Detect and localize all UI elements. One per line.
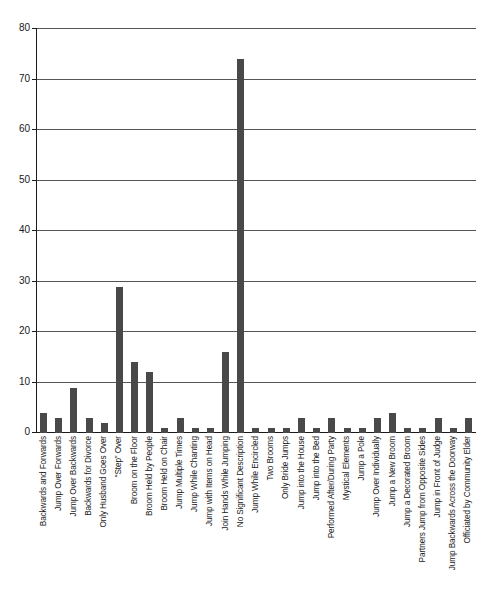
x-axis-tick-label: Jump Backwards Across the Doorway [449, 436, 457, 570]
y-axis: 01020304050607080 [0, 28, 30, 433]
x-axis-labels: Backwards and ForwardsJump Over Forwards… [36, 434, 476, 586]
y-tick-mark-30 [32, 281, 37, 282]
x-axis-tick-label: Officiated by Community Elder [464, 436, 472, 544]
x-axis-tick-label: Jump in Front of Judge [434, 436, 442, 518]
y-tick-mark-50 [32, 180, 37, 181]
x-label-slot: Jump with Items on Head [203, 434, 218, 586]
x-axis-tick-label: Jump Multiple Times [176, 436, 184, 509]
gridline-40 [37, 230, 476, 231]
gridline-10 [37, 382, 476, 383]
gridline-50 [37, 180, 476, 181]
x-axis-tick-label: No Significant Description [237, 436, 245, 527]
x-label-slot: Jump While Encircled [248, 434, 263, 586]
y-tick-label: 40 [19, 225, 30, 235]
x-label-slot: Broom Held on Chair [157, 434, 172, 586]
x-axis-tick-label: Mystical Elements [343, 436, 351, 500]
x-label-slot: Officiated by Community Elder [461, 434, 476, 586]
x-axis-tick-label: Broom on the Floor [131, 436, 139, 504]
y-tick-label: 20 [19, 326, 30, 336]
x-axis-tick-label: Jump Over Forwards [55, 436, 63, 511]
x-label-slot: Jump Over Individually [370, 434, 385, 586]
x-label-slot: Performed After/During Party [324, 434, 339, 586]
x-axis-tick-label: Performed After/During Party [328, 436, 336, 538]
x-axis-tick-label: Backwards and Forwards [39, 436, 47, 526]
y-tick-mark-80 [32, 28, 37, 29]
y-tick-mark-40 [32, 230, 37, 231]
x-label-slot: Only Bride Jumps [279, 434, 294, 586]
x-label-slot: Backwards and Forwards [36, 434, 51, 586]
x-label-slot: Jump Over Backwards [66, 434, 81, 586]
x-axis-tick-label: Partners Jump from Opposite Sides [419, 436, 427, 562]
y-tick-label: 70 [19, 74, 30, 84]
gridline-80 [37, 28, 476, 29]
x-label-slot: Partners Jump from Opposite Sides [415, 434, 430, 586]
y-tick-label: 50 [19, 175, 30, 185]
y-tick-label: 0 [24, 427, 30, 437]
x-axis-tick-label: Jump While Chanting [191, 436, 199, 512]
x-axis-tick-label: Jump a New Broom [388, 436, 396, 506]
x-label-slot: Jump in Front of Judge [430, 434, 445, 586]
x-label-slot: Jump a Decorated Broom [400, 434, 415, 586]
x-axis-tick-label: Join Hands While Jumping [222, 436, 230, 531]
x-label-slot: Jump into the Bed [309, 434, 324, 586]
x-label-slot: Jump While Chanting [188, 434, 203, 586]
y-tick-mark-10 [32, 382, 37, 383]
x-axis-tick-label: Only Bride Jumps [282, 436, 290, 499]
gridline-30 [37, 281, 476, 282]
x-label-slot: “Step” Over [112, 434, 127, 586]
x-label-slot: Join Hands While Jumping [218, 434, 233, 586]
x-label-slot: Jump a New Broom [385, 434, 400, 586]
x-label-slot: Broom Held by People [142, 434, 157, 586]
x-axis-tick-label: “Step” Over [115, 436, 123, 477]
x-label-slot: Jump Multiple Times [173, 434, 188, 586]
y-tick-mark-20 [32, 331, 37, 332]
y-tick-label: 10 [19, 377, 30, 387]
x-axis-tick-label: Only Husband Goes Over [100, 436, 108, 528]
x-axis-tick-label: Broom Held on Chair [161, 436, 169, 511]
x-label-slot: Jump into the House [294, 434, 309, 586]
x-axis-tick-label: Jump a Decorated Broom [404, 436, 412, 527]
x-label-slot: Jump a Pole [355, 434, 370, 586]
y-tick-mark-0 [32, 432, 37, 433]
y-tick-label: 80 [19, 23, 30, 33]
x-axis-tick-label: Broom Held by People [146, 436, 154, 516]
x-axis-tick-label: Jump a Pole [358, 436, 366, 480]
x-label-slot: Jump Backwards Across the Doorway [446, 434, 461, 586]
x-axis-tick-label: Jump into the Bed [313, 436, 321, 500]
x-axis-tick-label: Jump with Items on Head [206, 436, 214, 526]
y-tick-mark-60 [32, 129, 37, 130]
y-tick-label: 30 [19, 276, 30, 286]
x-axis-tick-label: Jump into the House [297, 436, 305, 509]
x-axis-tick-label: Jump While Encircled [252, 436, 260, 513]
bar-chart: 01020304050607080 Backwards and Forwards… [0, 0, 484, 590]
y-tick-label: 60 [19, 124, 30, 134]
x-label-slot: No Significant Description [233, 434, 248, 586]
x-label-slot: Mystical Elements [339, 434, 354, 586]
x-axis-tick-label: Jump Over Backwards [70, 436, 78, 516]
gridline-20 [37, 331, 476, 332]
gridline-60 [37, 129, 476, 130]
y-tick-mark-70 [32, 79, 37, 80]
x-label-slot: Backwards for Divorce [82, 434, 97, 586]
gridline-70 [37, 79, 476, 80]
x-axis-tick-label: Jump Over Individually [373, 436, 381, 517]
x-label-slot: Broom on the Floor [127, 434, 142, 586]
x-label-slot: Two Brooms [264, 434, 279, 586]
x-axis-tick-label: Backwards for Divorce [85, 436, 93, 516]
x-label-slot: Only Husband Goes Over [97, 434, 112, 586]
plot-area [36, 28, 476, 433]
x-label-slot: Jump Over Forwards [51, 434, 66, 586]
x-axis-tick-label: Two Brooms [267, 436, 275, 481]
